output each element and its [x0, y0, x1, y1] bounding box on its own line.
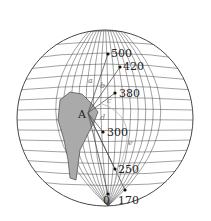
graticule [17, 14, 193, 206]
label-170: 170 [118, 194, 139, 207]
globe-diagram: A 500 420 380 300 250 0 170 a b c d e [0, 0, 211, 221]
label-500: 500 [111, 47, 132, 60]
label-420: 420 [123, 60, 144, 73]
point-a-label: A [77, 108, 87, 121]
line-label-b: b [100, 81, 105, 90]
line-label-a: a [88, 76, 93, 85]
label-300: 300 [107, 126, 128, 139]
line-label-c: c [107, 96, 112, 105]
continent-shape [58, 92, 98, 180]
label-380: 380 [119, 87, 140, 100]
label-0: 0 [103, 194, 110, 207]
line-label-d: d [100, 113, 105, 122]
line-label-e: e [128, 138, 133, 147]
label-250: 250 [118, 163, 139, 176]
